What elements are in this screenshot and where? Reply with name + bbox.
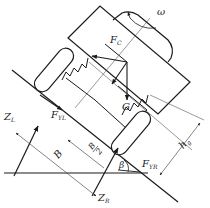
fc-force-arrow <box>92 56 127 62</box>
zr-force-arrow <box>92 148 118 196</box>
svg-text:2: 2 <box>94 147 105 157</box>
vehicle-roll-diagram: ω FC G FYL ZL B B 2 ZR FYR β hg <box>0 0 210 208</box>
vehicle-body <box>68 6 190 114</box>
resultant-arrow <box>112 62 127 84</box>
right-wheel <box>108 108 154 158</box>
body-centerline <box>75 18 150 108</box>
fyr-label: FYR <box>141 158 158 170</box>
hg-label: hg <box>176 135 193 151</box>
beta-label: β <box>118 160 124 170</box>
b-half-label: B 2 <box>86 140 105 158</box>
cg-axis-line <box>89 62 192 150</box>
b-label: B <box>51 148 65 161</box>
fyl-force-arrow <box>40 95 62 110</box>
hg-extension-line <box>150 95 204 120</box>
fc-label: FC <box>109 34 122 46</box>
zr-label: ZR <box>97 192 110 204</box>
hg-dimension-line <box>160 123 200 175</box>
b-dimension-line <box>16 133 96 196</box>
fyr-force-arrow <box>118 170 140 172</box>
omega-arrow-tip <box>128 12 130 18</box>
omega-label: ω <box>157 6 165 17</box>
zl-label: ZL <box>3 111 15 123</box>
left-wheel <box>31 45 77 95</box>
cab-top <box>113 12 172 62</box>
g-label: G <box>122 101 130 112</box>
zl-force-arrow <box>14 126 38 176</box>
